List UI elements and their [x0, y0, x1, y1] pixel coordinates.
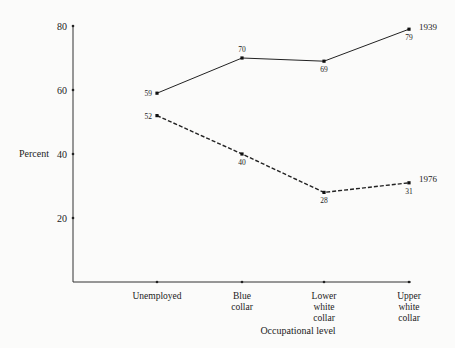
data-label: 52 — [145, 112, 153, 121]
series-name-label: 1939 — [419, 22, 438, 32]
data-label: 31 — [405, 187, 413, 196]
x-tick-mark — [156, 281, 159, 284]
data-point — [407, 181, 410, 184]
series-line-1939 — [157, 29, 409, 93]
y-tick-mark — [72, 217, 75, 220]
y-tick-mark — [72, 25, 75, 28]
x-axis-label: Occupational level — [260, 325, 335, 336]
y-tick-label: 20 — [57, 213, 67, 224]
data-point — [322, 60, 325, 63]
data-point — [240, 152, 243, 155]
series-name-label: 1976 — [419, 174, 438, 184]
x-tick-mark — [241, 281, 244, 284]
data-label: 59 — [145, 89, 153, 98]
data-point — [407, 28, 410, 31]
series-layer: 597069791939524028311976 — [145, 22, 438, 205]
y-tick-label: 80 — [57, 21, 67, 32]
y-tick-label: 40 — [57, 149, 67, 160]
data-label: 28 — [320, 196, 328, 205]
x-tick-label: Unemployed — [132, 291, 181, 301]
x-tick-mark — [408, 281, 411, 284]
data-point — [155, 92, 158, 95]
y-axis-label: Percent — [19, 148, 49, 159]
y-tick-mark — [72, 153, 75, 156]
x-tick-label: Bluecollar — [231, 291, 253, 312]
series-line-1976 — [157, 116, 409, 193]
x-tick-mark — [323, 281, 326, 284]
y-tick-mark — [72, 89, 75, 92]
axes: 20406080UnemployedBluecollarLowerwhiteco… — [57, 21, 422, 324]
data-point — [155, 114, 158, 117]
y-tick-label: 60 — [57, 85, 67, 96]
x-tick-label: Lowerwhitecollar — [312, 291, 338, 323]
data-label: 69 — [320, 65, 328, 74]
data-point — [322, 191, 325, 194]
data-label: 40 — [238, 158, 246, 167]
data-point — [240, 56, 243, 59]
data-label: 79 — [405, 33, 413, 42]
data-label: 70 — [238, 45, 246, 54]
x-tick-label: Upperwhitecollar — [397, 291, 422, 323]
line-chart: 20406080UnemployedBluecollarLowerwhiteco… — [0, 0, 455, 348]
